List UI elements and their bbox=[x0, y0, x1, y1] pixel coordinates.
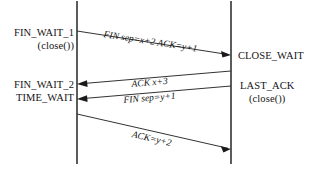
state-label-fin-wait-1: FIN_WAIT_1 (close()) bbox=[14, 27, 74, 52]
state-name-fin-wait-2: FIN_WAIT_2 bbox=[14, 79, 74, 92]
state-name-close-wait: CLOSE_WAIT bbox=[238, 50, 304, 63]
state-sub-fin-wait-1: (close()) bbox=[14, 40, 74, 53]
arrowhead-fin-2 bbox=[77, 95, 88, 102]
state-label-close-wait: CLOSE_WAIT bbox=[238, 50, 304, 63]
arrowhead-ack-2 bbox=[221, 146, 231, 152]
state-label-fin-wait-2: FIN_WAIT_2 bbox=[14, 79, 74, 92]
state-name-time-wait: TIME_WAIT bbox=[16, 92, 74, 105]
arrowhead-ack-1 bbox=[77, 80, 88, 87]
state-sub-last-ack: (close()) bbox=[240, 93, 294, 106]
state-label-last-ack: LAST_ACK(close()) bbox=[240, 80, 294, 105]
state-label-time-wait: TIME_WAIT bbox=[16, 92, 74, 105]
arrowhead-fin-1 bbox=[221, 51, 231, 58]
state-name-last-ack: LAST_ACK bbox=[240, 80, 294, 93]
state-name-fin-wait-1: FIN_WAIT_1 bbox=[14, 27, 74, 40]
sequence-diagram: FIN_WAIT_1 (close()) FIN_WAIT_2 TIME_WAI… bbox=[0, 0, 314, 169]
